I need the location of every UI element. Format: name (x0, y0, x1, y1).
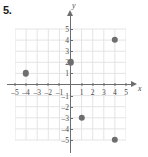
y-tick-mark (70, 29, 73, 30)
x-tick-mark (37, 83, 38, 86)
y-tick-mark (70, 118, 73, 119)
y-tick-label: –4 (62, 124, 70, 133)
x-tick-mark (126, 83, 127, 86)
x-axis-arrow-icon (131, 81, 137, 87)
problem-number-label: 5. (3, 4, 12, 16)
y-axis-label: y (72, 1, 76, 10)
x-tick-label: –5 (11, 88, 19, 97)
x-tick-label: –4 (22, 88, 30, 97)
x-tick-label: 2 (91, 88, 95, 97)
x-tick-label: –2 (45, 88, 53, 97)
x-tick-mark (81, 83, 82, 86)
x-tick-mark (114, 83, 115, 86)
y-tick-label: –3 (62, 113, 70, 122)
x-tick-mark (92, 83, 93, 86)
y-tick-mark (70, 129, 73, 130)
x-tick-label: 1 (80, 88, 84, 97)
graph-figure: 5. x y –5–4–3–2–112345 54321–1–2–3–4–5 (0, 0, 148, 157)
x-tick-label: 5 (124, 88, 128, 97)
y-axis-arrow-icon (67, 10, 73, 16)
y-tick-mark (70, 140, 73, 141)
x-tick-mark (15, 83, 16, 86)
x-tick-label: 3 (102, 88, 106, 97)
x-tick-label: –3 (33, 88, 41, 97)
y-tick-mark (70, 40, 73, 41)
y-tick-label: –5 (62, 136, 70, 145)
y-tick-mark (70, 73, 73, 74)
x-tick-label: 4 (113, 88, 117, 97)
y-tick-label: 3 (65, 47, 69, 56)
y-tick-label: 1 (65, 69, 69, 78)
x-tick-mark (26, 83, 27, 86)
x-axis-label: x (138, 84, 142, 93)
y-tick-label: 5 (65, 25, 69, 34)
y-tick-mark (70, 51, 73, 52)
y-tick-label: –1 (62, 91, 70, 100)
coordinate-plane: x y –5–4–3–2–112345 54321–1–2–3–4–5 (15, 23, 126, 146)
x-tick-mark (48, 83, 49, 86)
y-axis-line (70, 14, 71, 153)
x-tick-mark (103, 83, 104, 86)
y-tick-label: –2 (62, 102, 70, 111)
y-tick-mark (70, 107, 73, 108)
y-tick-mark (70, 96, 73, 97)
x-tick-mark (59, 83, 60, 86)
y-tick-label: 4 (65, 36, 69, 45)
